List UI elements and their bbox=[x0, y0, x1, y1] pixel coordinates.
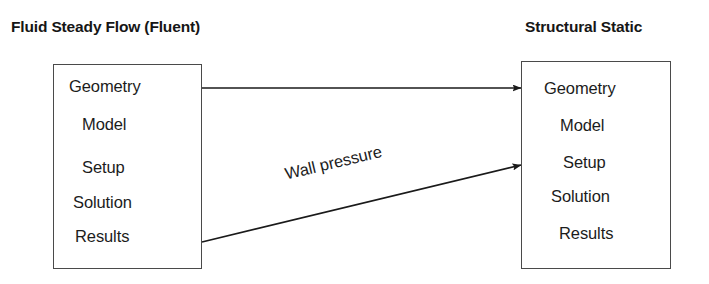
panel-title-structural: Structural Static bbox=[525, 18, 642, 36]
structural-step-solution: Solution bbox=[551, 187, 610, 206]
structural-step-results: Results bbox=[559, 224, 613, 243]
fluid-step-model: Model bbox=[82, 115, 126, 134]
fluid-step-geometry: Geometry bbox=[69, 77, 141, 96]
panel-title-fluid: Fluid Steady Flow (Fluent) bbox=[11, 18, 200, 36]
fluid-step-results: Results bbox=[75, 227, 129, 246]
structural-step-geometry: Geometry bbox=[544, 79, 616, 98]
structural-step-setup: Setup bbox=[563, 153, 606, 172]
structural-step-model: Model bbox=[560, 116, 604, 135]
connector-wall-pressure-arrow bbox=[202, 165, 521, 242]
fluid-step-solution: Solution bbox=[73, 193, 132, 212]
fluid-step-setup: Setup bbox=[82, 158, 125, 177]
